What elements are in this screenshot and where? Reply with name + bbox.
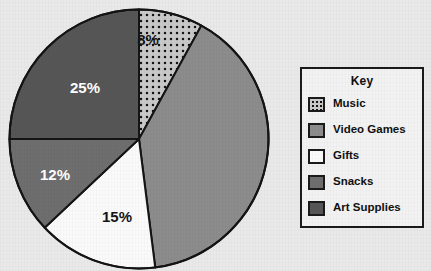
legend-item-snacks[interactable]: Snacks	[302, 169, 422, 195]
legend-items: MusicVideo GamesGiftsSnacksArt Supplies	[302, 91, 422, 221]
legend-swatch-icon	[308, 97, 325, 112]
legend-item-label: Music	[333, 98, 366, 110]
legend-item-label: Art Supplies	[333, 202, 401, 214]
legend-title: Key	[302, 74, 422, 88]
legend-swatch-icon	[308, 123, 325, 138]
pie-slices	[10, 10, 269, 269]
legend-swatch-icon	[308, 201, 325, 216]
slice-label-music: 8%	[137, 31, 159, 48]
legend-item-music[interactable]: Music	[302, 91, 422, 117]
legend: Key MusicVideo GamesGiftsSnacksArt Suppl…	[300, 67, 424, 228]
legend-swatch-icon	[308, 175, 325, 190]
legend-item-video-games[interactable]: Video Games	[302, 117, 422, 143]
slice-label-art-supplies: 25%	[70, 79, 100, 96]
slice-label-gifts: 15%	[102, 208, 132, 225]
legend-item-label: Gifts	[333, 150, 359, 162]
chart-canvas: 8% 25% 12% 15% Key MusicVideo GamesGifts…	[0, 0, 431, 271]
pie-slice-art-supplies[interactable]	[10, 10, 140, 140]
legend-item-gifts[interactable]: Gifts	[302, 143, 422, 169]
legend-swatch-icon	[308, 149, 325, 164]
legend-item-label: Snacks	[333, 176, 373, 188]
slice-label-snacks: 12%	[40, 166, 70, 183]
legend-item-label: Video Games	[333, 124, 406, 136]
legend-item-art-supplies[interactable]: Art Supplies	[302, 195, 422, 221]
